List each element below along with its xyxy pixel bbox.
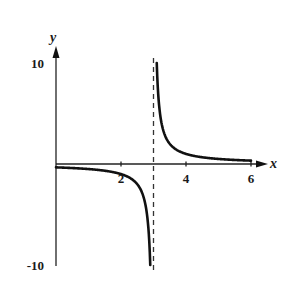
x-axis-label: x bbox=[269, 156, 277, 171]
chart: y x 246 10-10 bbox=[0, 0, 288, 296]
y-tick-label: -10 bbox=[27, 258, 44, 273]
x-ticks: 246 bbox=[118, 162, 255, 187]
curve-left-branch bbox=[56, 167, 150, 265]
y-axis-label: y bbox=[48, 30, 57, 45]
x-tick-label: 6 bbox=[248, 171, 255, 186]
curve-right-branch bbox=[157, 63, 251, 161]
y-ticks: 10-10 bbox=[27, 56, 44, 273]
x-tick-label: 4 bbox=[183, 171, 190, 186]
x-axis-arrow-icon bbox=[256, 161, 268, 168]
y-tick-label: 10 bbox=[31, 56, 44, 71]
y-axis-arrow-icon bbox=[53, 46, 60, 58]
